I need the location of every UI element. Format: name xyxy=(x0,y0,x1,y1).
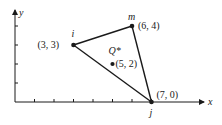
node-m-coord: (6, 4) xyxy=(138,20,160,32)
node-j-coord: (7, 0) xyxy=(157,89,179,101)
y-axis-label: y xyxy=(18,7,24,18)
node-j xyxy=(149,100,154,105)
x-axis-label: x xyxy=(207,96,213,107)
node-m xyxy=(130,24,135,29)
node-i xyxy=(71,43,76,48)
edge-i-m xyxy=(74,26,133,45)
point-q-coord: (5, 2) xyxy=(116,58,138,70)
diagram: x y i(3, 3)j(7, 0)m(6, 4)Q*(5, 2) xyxy=(0,0,222,125)
node-j-label: j xyxy=(148,107,153,118)
node-m-label: m xyxy=(128,11,135,22)
point-q-label: Q* xyxy=(109,45,121,56)
point-q xyxy=(110,62,114,66)
node-i-label: i xyxy=(72,28,75,39)
node-i-coord: (3, 3) xyxy=(38,39,60,51)
